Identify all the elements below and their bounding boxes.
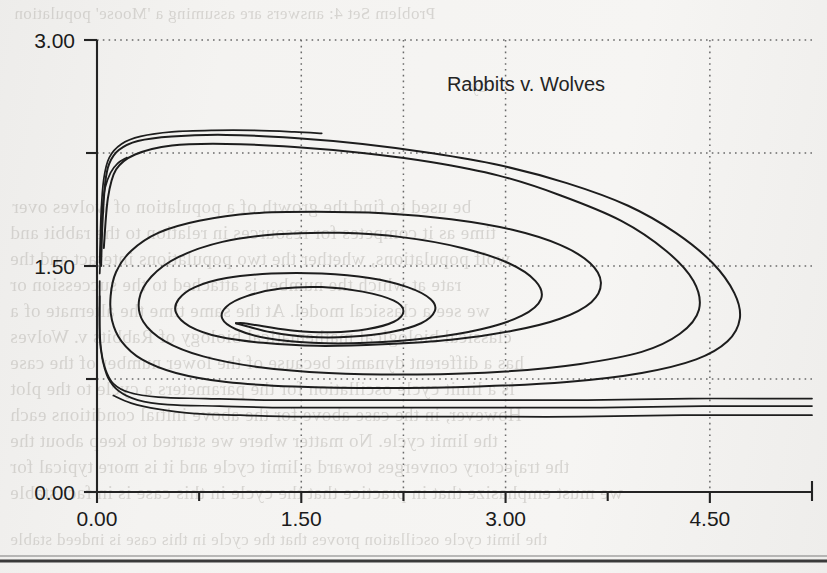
scanned-page-background: Problem Set 4: answers are assuming a 'M… xyxy=(0,0,827,573)
trajectory-curve xyxy=(100,130,322,263)
trajectory-curves xyxy=(100,130,812,417)
x-tick-label: 1.50 xyxy=(281,507,322,530)
trajectory-curve xyxy=(104,144,700,375)
x-tick-label: 4.50 xyxy=(689,507,730,530)
x-tick-label: 3.00 xyxy=(485,507,526,530)
chart-title: Rabbits v. Wolves xyxy=(447,73,605,95)
gridlines xyxy=(97,40,812,492)
phase-plane-figure: 0.001.503.004.500.001.503.00 Rabbits v. … xyxy=(0,0,827,573)
phase-plane-plot: 0.001.503.004.500.001.503.00 Rabbits v. … xyxy=(0,0,827,573)
trajectory-curve xyxy=(100,296,812,408)
axes xyxy=(97,40,812,492)
x-tick-label: 0.00 xyxy=(77,507,118,530)
tick-marks xyxy=(84,40,812,503)
y-tick-label: 0.00 xyxy=(34,481,75,504)
y-tick-label: 3.00 xyxy=(34,29,75,52)
y-tick-label: 1.50 xyxy=(34,255,75,278)
trajectory-curve xyxy=(100,281,812,400)
